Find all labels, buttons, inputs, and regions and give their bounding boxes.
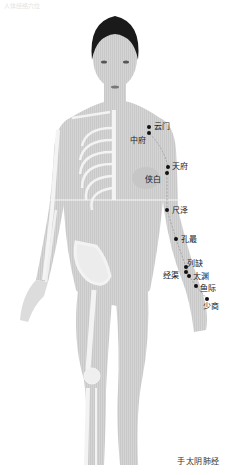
acupoint-label: 孔最 bbox=[181, 235, 197, 244]
acupoint-dot bbox=[147, 131, 151, 135]
acupoint-label: 列缺 bbox=[187, 259, 203, 268]
acupoint-dot bbox=[174, 237, 178, 241]
right-arm bbox=[158, 118, 207, 332]
acupoint-label: 中府 bbox=[130, 136, 146, 145]
acupoint-label: 云门 bbox=[154, 122, 170, 131]
head bbox=[91, 16, 138, 89]
acupoint-label: 太渊 bbox=[193, 272, 209, 281]
acupoint-label: 经渠 bbox=[163, 271, 179, 280]
acupoint-dot bbox=[205, 297, 209, 301]
diagram-caption: 手太阴肺经 bbox=[177, 455, 220, 466]
acupoint-label: 天府 bbox=[172, 162, 188, 171]
acupoint-label: 少商 bbox=[203, 302, 219, 311]
acupoint-label: 鱼际 bbox=[200, 284, 216, 293]
acupoint-dot bbox=[194, 284, 198, 288]
acupoint-dot bbox=[147, 125, 151, 129]
acupoint-dot bbox=[165, 171, 169, 175]
lung-meridian-diagram: 人体经络穴位 bbox=[0, 0, 232, 475]
human-body-figure bbox=[0, 0, 232, 475]
acupoint-dot bbox=[166, 165, 170, 169]
acupoint-dot bbox=[165, 208, 169, 212]
acupoint-label: 侠白 bbox=[145, 175, 161, 184]
left-arm bbox=[20, 118, 72, 322]
acupoint-dot bbox=[187, 274, 191, 278]
acupoint-label: 尺泽 bbox=[172, 206, 188, 215]
